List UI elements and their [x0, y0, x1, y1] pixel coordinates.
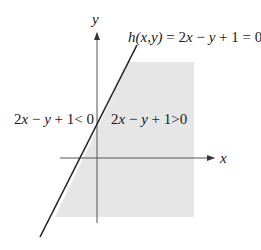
positive-region-shade [55, 62, 194, 217]
positive-region-label: 2x − y + 1>0 [111, 111, 187, 127]
half-plane-diagram: y x h(x,y) = 2x − y + 1 = 0 2x − y + 1< … [0, 0, 261, 250]
negative-region-label: 2x − y + 1< 0 [14, 111, 94, 127]
y-axis-label: y [90, 11, 99, 27]
boundary-equation-label: h(x,y) = 2x − y + 1 = 0 [128, 29, 261, 46]
x-axis-label: x [219, 150, 227, 166]
